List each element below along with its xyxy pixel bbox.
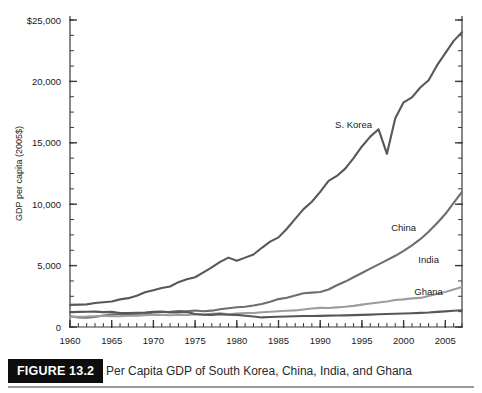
- figure-number-label: FIGURE 13.2: [17, 364, 94, 378]
- series-line-s-korea: [70, 32, 462, 305]
- series-label-s-korea: S. Korea: [335, 119, 373, 130]
- figure-number-badge: FIGURE 13.2: [8, 359, 103, 383]
- y-axis-title: GDP per capita (2005$): [14, 126, 24, 221]
- y-tick-label: 15,000: [32, 137, 61, 148]
- y-tick-label: 0: [56, 322, 61, 333]
- y-tick-label: 20,000: [32, 76, 61, 87]
- x-tick-label: 1960: [59, 335, 80, 346]
- chart-plot-area: 05,00010,00015,00020,000$25,000196019651…: [0, 0, 482, 352]
- x-tick-label: 2000: [393, 335, 414, 346]
- x-tick-label: 1980: [226, 335, 247, 346]
- figure-caption-text: Per Capita GDP of South Korea, China, In…: [106, 359, 412, 383]
- x-tick-label: 1995: [351, 335, 372, 346]
- x-tick-label: 1985: [268, 335, 289, 346]
- series-label-ghana: Ghana: [414, 286, 443, 297]
- y-tick-label: $25,000: [27, 15, 61, 26]
- series-label-india: India: [418, 254, 439, 265]
- caption-divider: [8, 386, 474, 388]
- figure-container: 05,00010,00015,00020,000$25,000196019651…: [0, 0, 482, 393]
- x-tick-label: 1975: [185, 335, 206, 346]
- x-tick-label: 1965: [101, 335, 122, 346]
- figure-caption: FIGURE 13.2 Per Capita GDP of South Kore…: [0, 355, 482, 393]
- y-tick-label: 5,000: [37, 260, 61, 271]
- line-chart: 05,00010,00015,00020,000$25,000196019651…: [0, 0, 482, 352]
- series-label-china: China: [391, 222, 417, 233]
- x-tick-label: 1990: [310, 335, 331, 346]
- x-tick-label: 2005: [435, 335, 456, 346]
- x-tick-label: 1970: [143, 335, 164, 346]
- y-tick-label: 10,000: [32, 199, 61, 210]
